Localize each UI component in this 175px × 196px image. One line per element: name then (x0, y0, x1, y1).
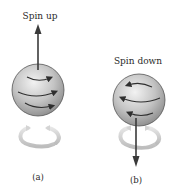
rotation-ring-icon (20, 125, 58, 146)
caption-b: (b) (130, 175, 142, 185)
electron-sphere (12, 64, 64, 116)
spin-up-label: Spin up (22, 11, 57, 21)
spin-down-label: Spin down (114, 56, 162, 66)
spin-up-arrow-icon (35, 24, 42, 70)
panel-a: Spin up (a) (12, 11, 64, 182)
panel-b: Spin down (b) (113, 56, 165, 185)
electron-sphere (113, 74, 165, 126)
spin-diagram: Spin up (a) Spin down (0, 0, 175, 196)
caption-a: (a) (32, 172, 44, 182)
rotation-ring-icon (120, 125, 159, 148)
